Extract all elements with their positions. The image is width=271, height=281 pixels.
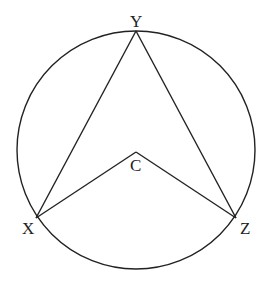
circle-diagram: Y C X Z — [0, 0, 271, 281]
radius-cz — [136, 152, 236, 218]
label-y: Y — [130, 12, 142, 31]
label-x: X — [22, 219, 34, 238]
circle — [17, 31, 255, 269]
label-z: Z — [240, 219, 250, 238]
chord-yx — [36, 31, 136, 218]
label-c: C — [130, 156, 141, 175]
radius-cx — [36, 152, 136, 218]
chord-yz — [136, 31, 236, 218]
